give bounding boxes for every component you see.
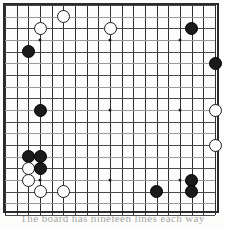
stone-white[interactable] [22, 174, 35, 187]
stone-white[interactable] [209, 139, 222, 152]
stone-black[interactable] [22, 45, 35, 58]
figure-caption: The board has nineteen lines each way [0, 214, 225, 229]
stone-white[interactable] [104, 22, 117, 35]
stone-black[interactable] [185, 22, 198, 35]
stone-white[interactable] [34, 185, 47, 198]
stone-black[interactable] [209, 57, 222, 70]
stone-white[interactable] [34, 22, 47, 35]
stone-white[interactable] [57, 185, 70, 198]
stone-black[interactable] [34, 104, 47, 117]
stone-white[interactable] [22, 162, 35, 175]
stone-white[interactable] [209, 104, 222, 117]
stone-white[interactable] [57, 10, 70, 23]
stone-black[interactable] [34, 162, 47, 175]
go-board[interactable] [0, 0, 225, 215]
caption-text: The board has nineteen lines each way [20, 214, 205, 225]
go-diagram-page: The board has nineteen lines each way [0, 0, 225, 229]
